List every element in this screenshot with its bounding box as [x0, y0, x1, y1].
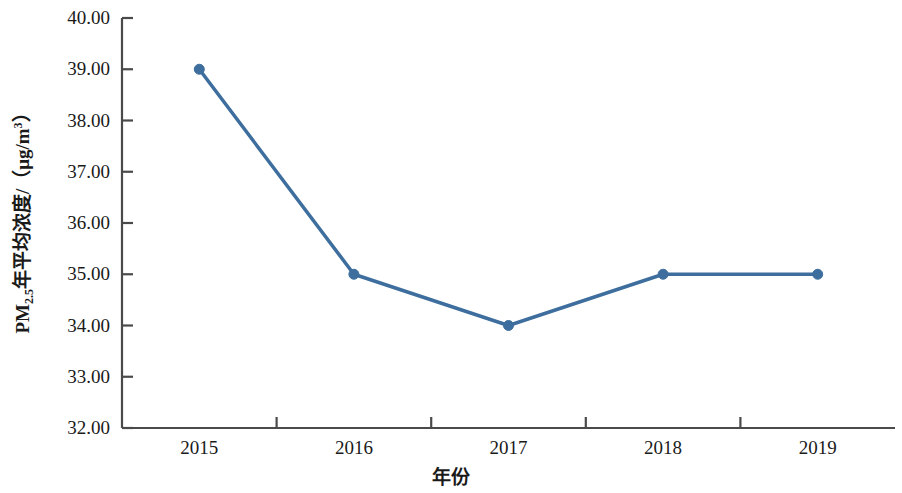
x-axis-ticks [277, 417, 741, 428]
series-line-path [199, 69, 817, 325]
plot-area [0, 0, 902, 493]
axis-lines [122, 18, 895, 428]
series-markers [194, 64, 822, 330]
y-axis-ticks [122, 18, 133, 428]
chart-figure: PM2.5年平均浓度/（μg/m3） 40.0039.0038.0037.003… [0, 0, 902, 493]
